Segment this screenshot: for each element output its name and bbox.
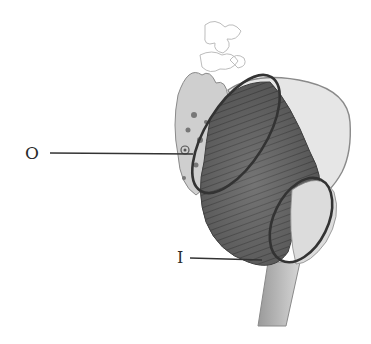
anatomical-figure: O I	[0, 0, 371, 344]
hip-joint-illustration	[0, 0, 371, 344]
label-I: I	[177, 250, 183, 266]
label-O: O	[25, 145, 39, 162]
ilium-sketch	[200, 21, 245, 71]
leader-line-O	[50, 153, 193, 154]
femur-shaft	[258, 262, 300, 326]
